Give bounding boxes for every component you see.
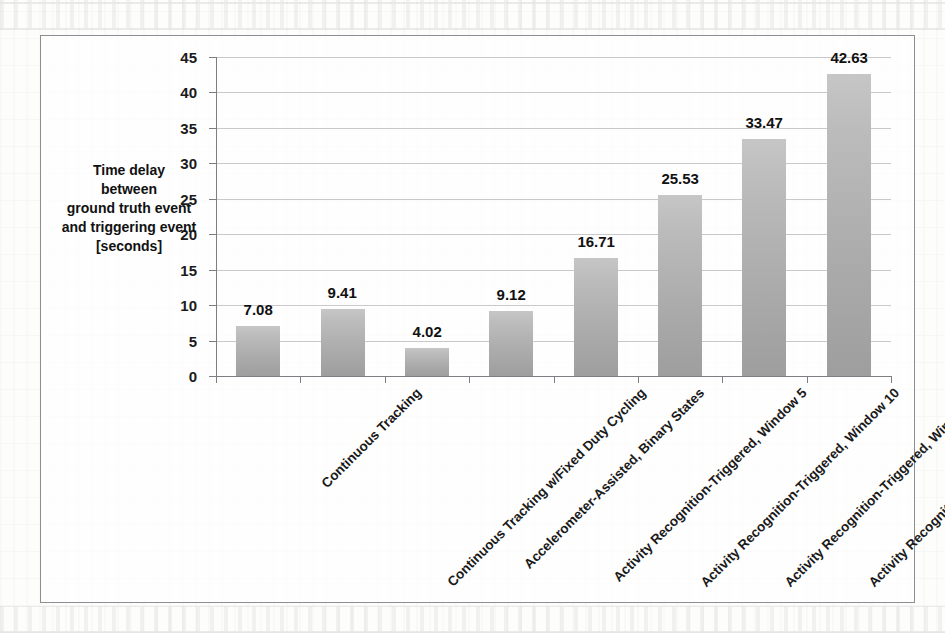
category-label: Continuous Tracking (319, 386, 423, 490)
category-tick-mark (300, 376, 301, 383)
plot-area: 7.089.414.029.1216.7125.5333.4742.63 (216, 57, 891, 376)
bar (489, 311, 533, 376)
category-tick-mark (385, 376, 386, 383)
y-tick-label: 15 (137, 263, 197, 278)
bar (574, 258, 618, 376)
y-axis-title-line-3: ground truth event (47, 199, 211, 218)
y-tick-label: 40 (137, 85, 197, 100)
category-tick-mark (554, 376, 555, 383)
y-axis-title-line-4: and triggering event (47, 218, 211, 237)
bar (742, 139, 786, 376)
bar (321, 309, 365, 376)
bar-value-label: 16.71 (554, 234, 638, 249)
bar-value-label: 9.12 (469, 287, 553, 302)
category-tick-mark (216, 376, 217, 383)
bar-value-label: 7.08 (216, 302, 300, 317)
y-tick-label: 0 (137, 369, 197, 384)
y-axis-title-line-5: [seconds] (47, 237, 211, 256)
bar (658, 195, 702, 376)
y-tick-label: 35 (137, 121, 197, 136)
category-label: Continuous Tracking w/Fixed Duty Cycling (445, 386, 648, 589)
page-bleedthrough-bottom (0, 606, 945, 633)
page-bleedthrough-top (0, 0, 945, 30)
category-label: Activity Recognition-Triggered, Window 5 (611, 386, 809, 584)
y-axis-title-line-1: Time delay (47, 161, 211, 180)
y-axis-title-line-2: between (47, 180, 211, 199)
y-tick-label: 5 (137, 334, 197, 349)
category-tick-mark (807, 376, 808, 383)
bar (236, 326, 280, 376)
category-tick-mark (638, 376, 639, 383)
bar (827, 74, 871, 376)
bar (405, 348, 449, 376)
chart-frame: Time delay between ground truth event an… (40, 35, 915, 603)
bar-value-label: 25.53 (638, 171, 722, 186)
bar-value-label: 4.02 (385, 324, 469, 339)
y-tick-label: 45 (137, 50, 197, 65)
bar-value-label: 9.41 (300, 285, 384, 300)
category-tick-mark (469, 376, 470, 383)
y-tick-label: 10 (137, 298, 197, 313)
category-tick-mark (722, 376, 723, 383)
y-axis-title: Time delay between ground truth event an… (47, 161, 211, 256)
bar-value-label: 33.47 (722, 115, 806, 130)
bar-value-label: 42.63 (807, 50, 891, 65)
category-tick-mark (891, 376, 892, 383)
